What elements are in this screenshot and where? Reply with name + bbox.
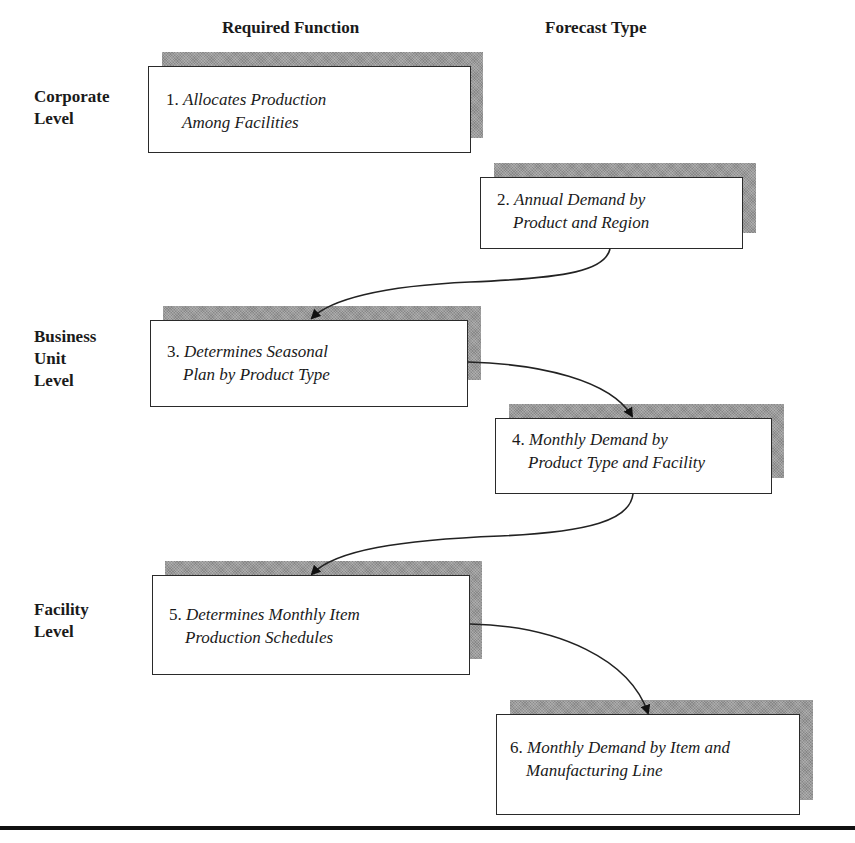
box-1-line1: Allocates Production — [183, 90, 326, 109]
box-3-number: 3. — [167, 342, 180, 361]
box-2-text: 2. Annual Demand by Product and Region — [497, 188, 649, 234]
box-5-line1: Determines Monthly Item — [186, 605, 360, 624]
box-3-line1: Determines Seasonal — [184, 342, 328, 361]
box-5-text: 5. Determines Monthly Item Production Sc… — [169, 603, 360, 649]
box-4-line1: Monthly Demand by — [529, 430, 668, 449]
level-label-facility: Facility Level — [34, 599, 89, 643]
level-label-business-unit: Business Unit Level — [34, 326, 96, 392]
box-4-text: 4. Monthly Demand by Product Type and Fa… — [512, 428, 705, 474]
box-2-line2: Product and Region — [497, 211, 649, 234]
box-2-number: 2. — [497, 190, 510, 209]
box-4-number: 4. — [512, 430, 525, 449]
box-1-text: 1. Allocates Production Among Facilities — [166, 88, 326, 134]
box-6-line1: Monthly Demand by Item and — [527, 738, 730, 757]
header-forecast-type: Forecast Type — [545, 18, 647, 38]
box-6-text: 6. Monthly Demand by Item and Manufactur… — [510, 736, 730, 782]
box-6-number: 6. — [510, 738, 523, 757]
box-2-line1: Annual Demand by — [514, 190, 645, 209]
box-1-number: 1. — [166, 90, 179, 109]
level-label-corporate: Corporate Level — [34, 86, 110, 130]
box-4-line2: Product Type and Facility — [512, 451, 705, 474]
box-5-line2: Production Schedules — [169, 626, 360, 649]
box-3-text: 3. Determines Seasonal Plan by Product T… — [167, 340, 330, 386]
box-1-line2: Among Facilities — [166, 111, 326, 134]
bottom-rule — [0, 826, 855, 830]
box-5-number: 5. — [169, 605, 182, 624]
header-required-function: Required Function — [222, 18, 359, 38]
box-6-line2: Manufacturing Line — [510, 759, 730, 782]
box-3-line2: Plan by Product Type — [167, 363, 330, 386]
